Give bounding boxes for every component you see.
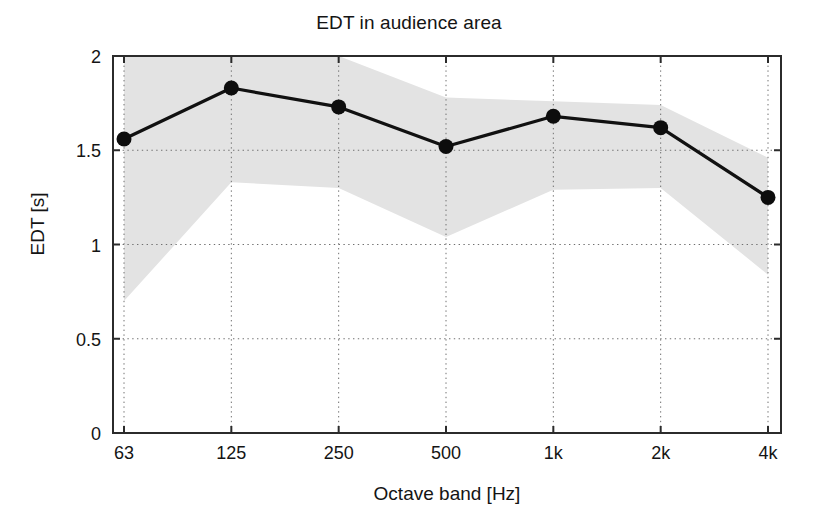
chart-figure: EDT in audience area 631252505001k2k4k 0… (0, 0, 818, 524)
data-point-marker (653, 120, 668, 135)
x-tick-label: 500 (431, 443, 461, 463)
data-point-marker (331, 99, 346, 114)
data-point-marker (224, 81, 239, 96)
y-axis-label: EDT [s] (27, 124, 49, 324)
y-tick-label: 1 (91, 236, 101, 256)
plot-area: 631252505001k2k4k 00.511.52 (0, 0, 818, 524)
y-tick-label: 0 (91, 424, 101, 444)
y-tick-label: 0.5 (76, 330, 101, 350)
x-tick-label: 125 (216, 443, 246, 463)
x-axis-label: Octave band [Hz] (113, 483, 781, 505)
y-tick-labels: 00.511.52 (76, 47, 101, 444)
y-tick-label: 2 (91, 47, 101, 67)
x-tick-label: 250 (324, 443, 354, 463)
data-point-marker (439, 139, 454, 154)
x-tick-label: 2k (651, 443, 671, 463)
x-tick-labels: 631252505001k2k4k (114, 443, 779, 463)
data-point-marker (117, 131, 132, 146)
x-tick-label: 4k (758, 443, 778, 463)
x-tick-label: 1k (544, 443, 564, 463)
x-tick-label: 63 (114, 443, 134, 463)
y-tick-label: 1.5 (76, 141, 101, 161)
data-point-marker (546, 109, 561, 124)
data-point-marker (761, 190, 776, 205)
